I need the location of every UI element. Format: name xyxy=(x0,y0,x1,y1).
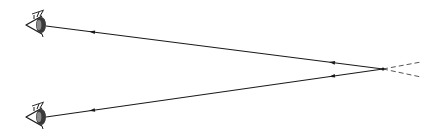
eyes-layer xyxy=(26,10,46,129)
lower-dashed xyxy=(383,69,421,77)
eye-icon xyxy=(26,102,46,129)
upper-dashed xyxy=(383,62,421,69)
diagram-svg xyxy=(0,0,444,135)
convergence-point xyxy=(381,67,384,70)
rays-layer xyxy=(46,26,383,117)
eye-icon xyxy=(26,10,46,37)
arrowheads-layer xyxy=(89,30,335,113)
dashed-extensions-layer xyxy=(383,62,421,77)
ray-diagram xyxy=(0,0,444,135)
